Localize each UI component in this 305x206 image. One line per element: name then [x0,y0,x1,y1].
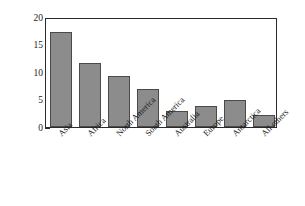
y-axis-tick-label: 20 [21,13,43,24]
y-axis-tick-label: 10 [21,68,43,79]
y-axis-tick-label: 15 [21,40,43,51]
bar-chart-figure: Area (millions of sq. miles) 05101520 As… [0,0,305,206]
y-axis-tick-label: 0 [21,123,43,134]
bar [50,32,72,127]
y-axis-tick-label: 5 [21,95,43,106]
y-axis-tick-mark [45,128,50,129]
